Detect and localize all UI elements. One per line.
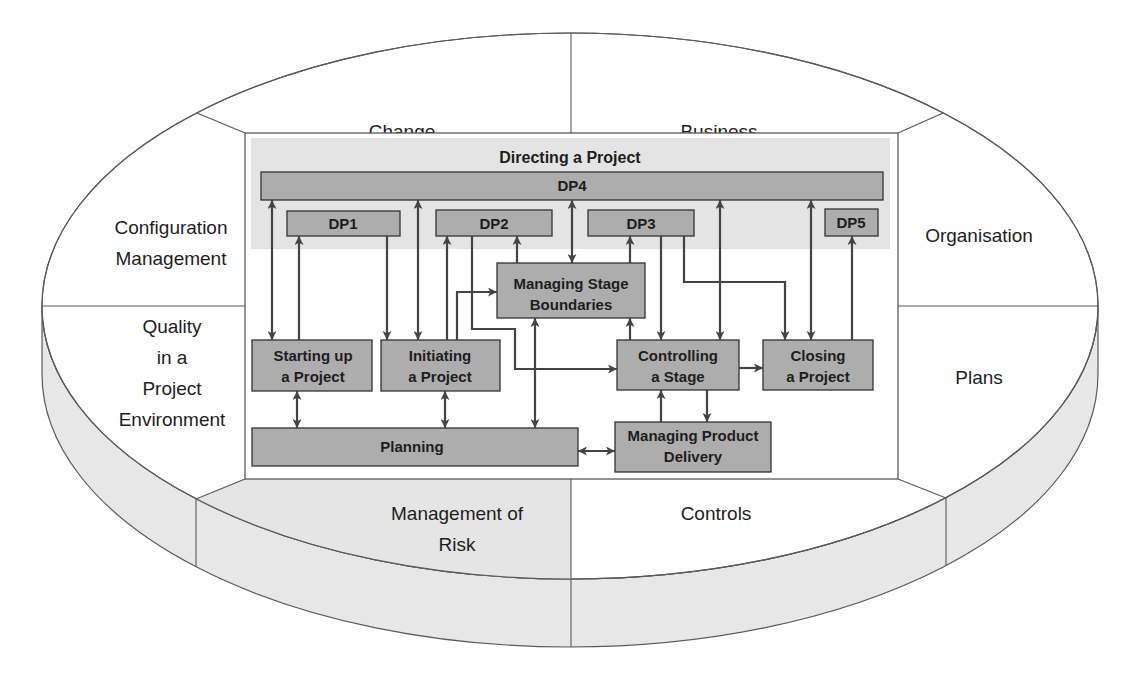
directing-title: Directing a Project <box>499 149 641 166</box>
segment-label-line: Quality <box>142 316 202 337</box>
process-planning: Planning <box>252 428 578 466</box>
process-managing-product-delivery: Managing Product Delivery <box>615 422 771 472</box>
process-label-line: Closing <box>791 347 846 364</box>
segment-label-line: Configuration <box>114 217 227 238</box>
dp4-label: DP4 <box>557 177 587 194</box>
process-label-line: Managing Product <box>628 427 759 444</box>
process-label-line: a Project <box>786 368 849 385</box>
segment-plans: Plans <box>955 367 1003 388</box>
process-label-line: Starting up <box>273 347 352 364</box>
dp3-box: DP3 <box>588 210 694 236</box>
process-starting-up: Starting up a Project <box>252 340 372 391</box>
dp4-box: DP4 <box>261 172 883 200</box>
process-label-line: a Stage <box>651 368 704 385</box>
segment-label-line: Controls <box>681 503 752 524</box>
process-closing: Closing a Project <box>763 340 873 390</box>
process-label-line: Managing Stage <box>513 275 628 292</box>
dp1-label: DP1 <box>328 215 357 232</box>
segment-organisation: Organisation <box>925 225 1033 246</box>
dp2-label: DP2 <box>479 215 508 232</box>
process-label-line: Controlling <box>638 347 718 364</box>
segment-label-line: Project <box>142 378 202 399</box>
process-label-line: a Project <box>408 368 471 385</box>
process-label-line: Planning <box>380 438 443 455</box>
segment-label-line: Management of <box>391 503 524 524</box>
dp5-box: DP5 <box>825 209 878 236</box>
process-initiating: Initiating a Project <box>381 340 500 391</box>
process-label-line: a Project <box>281 368 344 385</box>
prince2-process-model-diagram: Change Control Business Case Organisatio… <box>0 0 1140 678</box>
segment-label-line: Risk <box>439 534 476 555</box>
dp5-label: DP5 <box>836 214 865 231</box>
segment-label-line: Plans <box>955 367 1003 388</box>
process-label-line: Initiating <box>409 347 472 364</box>
process-controlling-stage: Controlling a Stage <box>617 340 739 390</box>
segment-controls: Controls <box>681 503 752 524</box>
process-label-line: Delivery <box>664 448 723 465</box>
segment-label-line: Environment <box>119 409 226 430</box>
dp2-box: DP2 <box>436 210 552 236</box>
segment-label-line: Management <box>116 248 228 269</box>
dp1-box: DP1 <box>287 211 400 236</box>
segment-label-line: Organisation <box>925 225 1033 246</box>
process-label-line: Boundaries <box>530 296 613 313</box>
segment-label-line: in a <box>157 347 188 368</box>
process-managing-stage-boundaries: Managing Stage Boundaries <box>497 263 645 318</box>
dp3-label: DP3 <box>626 215 655 232</box>
